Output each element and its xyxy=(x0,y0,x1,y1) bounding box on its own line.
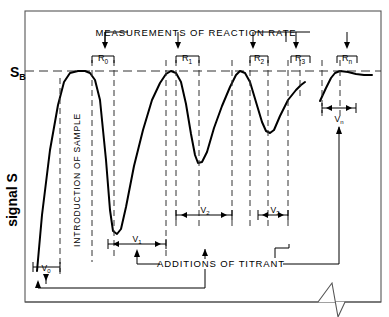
bottom-annotation-label: ADDITIONS OF TITRANT xyxy=(157,258,285,269)
volume-marker-V1: V1 xyxy=(108,234,166,249)
figure-container: SB signal S MEASUREMENTS OF REACTION RAT… xyxy=(0,0,389,317)
volume-marker-V1-label: V1 xyxy=(132,234,142,245)
y-tick-label-SB: SB xyxy=(10,64,26,82)
rate-marker-Rn-label: Rn xyxy=(342,53,353,65)
rate-marker-R3-label: R3 xyxy=(295,53,306,65)
volume-marker-Vn: Vn xyxy=(322,103,356,140)
reaction-rate-diagram: SB signal S MEASUREMENTS OF REACTION RAT… xyxy=(0,0,389,317)
volume-marker-Vn-label: Vn xyxy=(334,114,343,125)
volume-marker-V2-label: V2 xyxy=(200,205,210,216)
signal-trace-final xyxy=(320,71,372,101)
rate-marker-R2: R2 xyxy=(250,53,268,65)
rate-marker-R3: R3 xyxy=(291,53,310,65)
rate-marker-R2-label: R2 xyxy=(254,53,265,65)
rate-marker-R1: R1 xyxy=(176,53,199,65)
volume-marker-V3-label: V3 xyxy=(270,205,280,216)
rate-marker-R1-label: R1 xyxy=(182,53,193,65)
top-annotation-label: MEASUREMENTS OF REACTION RATE xyxy=(95,27,296,38)
rate-marker-R0: R0 xyxy=(92,53,114,65)
volume-marker-V0-label: V0 xyxy=(41,263,51,274)
introduction-of-sample-label: INTRODUCTION OF SAMPLE xyxy=(72,113,82,247)
volume-marker-V2: V2 xyxy=(176,205,232,220)
rate-marker-R0-label: R0 xyxy=(98,53,109,65)
dropline-group xyxy=(60,60,340,274)
y-axis-title: signal S xyxy=(4,173,20,227)
volume-marker-V3: V3 xyxy=(258,205,288,220)
